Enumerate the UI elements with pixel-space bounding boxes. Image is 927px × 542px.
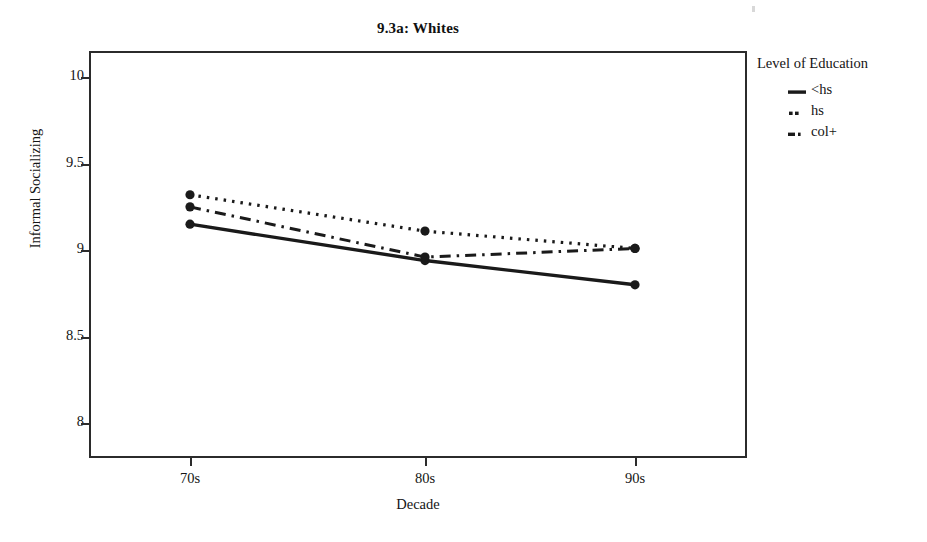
x-axis-title: Decade xyxy=(89,496,747,513)
data-point-marker xyxy=(420,252,429,261)
data-point-marker xyxy=(420,227,429,236)
legend-item-label: col+ xyxy=(811,123,837,140)
x-axis-tick-label: 80s xyxy=(385,470,465,487)
figure-canvas: 9.3a: Whites 88.599.510 Informal Sociali… xyxy=(0,0,927,542)
series-col+ xyxy=(185,202,639,261)
legend: Level of Education <hshscol+ xyxy=(757,55,922,142)
x-axis-tick-mark xyxy=(635,458,637,466)
y-axis-tick-mark xyxy=(81,250,89,252)
legend-item-label: <hs xyxy=(811,81,832,98)
data-point-marker xyxy=(185,220,194,229)
y-axis-tick-mark xyxy=(81,337,89,339)
scan-artifact-speck xyxy=(752,6,755,12)
series-hs xyxy=(185,220,639,290)
x-axis-tick-label: 90s xyxy=(595,470,675,487)
y-axis-title: Informal Socializing xyxy=(27,79,44,299)
legend-item-label: hs xyxy=(811,102,824,119)
dash-dot-line-icon xyxy=(787,126,809,138)
legend-items: <hshscol+ xyxy=(757,79,922,142)
series-hs xyxy=(185,190,639,253)
x-axis-tick-marks xyxy=(89,458,747,467)
data-point-marker xyxy=(185,202,194,211)
data-point-marker xyxy=(630,280,639,289)
plot-area xyxy=(89,51,747,458)
x-axis-tick-mark xyxy=(425,458,427,466)
y-axis-tick-mark xyxy=(81,164,89,166)
y-axis-tick-mark xyxy=(81,423,89,425)
y-axis-tick-mark xyxy=(81,77,89,79)
legend-item[interactable]: <hs xyxy=(787,79,922,100)
legend-title: Level of Education xyxy=(757,55,922,72)
chart-title: 9.3a: Whites xyxy=(89,20,747,37)
x-axis-tick-labels: 70s80s90s xyxy=(89,470,747,492)
x-axis-tick-mark xyxy=(190,458,192,466)
data-point-marker xyxy=(630,244,639,253)
solid-line-icon xyxy=(787,84,809,96)
series-line xyxy=(190,207,635,257)
y-axis-tick-labels: 88.599.510 xyxy=(40,51,84,458)
x-axis-tick-label: 70s xyxy=(150,470,230,487)
data-point-marker xyxy=(185,190,194,199)
y-axis-tick-marks xyxy=(81,51,89,458)
legend-item[interactable]: hs xyxy=(787,100,922,121)
legend-item[interactable]: col+ xyxy=(787,121,922,142)
series-line xyxy=(190,224,635,285)
dotted-line-icon xyxy=(787,105,809,117)
